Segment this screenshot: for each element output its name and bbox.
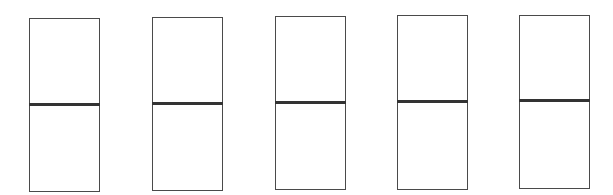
top-half [152, 17, 223, 103]
divider-line [275, 101, 346, 104]
bottom-half [275, 102, 346, 190]
divided-rectangle-2 [152, 17, 223, 191]
bottom-half [397, 101, 468, 190]
divider-line [397, 100, 468, 103]
divider-line [519, 99, 590, 102]
divided-rectangle-4 [397, 15, 468, 190]
top-half [275, 16, 346, 102]
divider-line [29, 103, 100, 106]
divided-rectangle-3 [275, 16, 346, 190]
bottom-half [519, 100, 590, 189]
divider-line [152, 102, 223, 105]
top-half [519, 15, 590, 100]
bottom-half [29, 104, 100, 192]
bottom-half [152, 103, 223, 191]
divided-rectangle-5 [519, 15, 590, 189]
top-half [29, 18, 100, 104]
divided-rectangle-1 [29, 18, 100, 192]
top-half [397, 15, 468, 101]
